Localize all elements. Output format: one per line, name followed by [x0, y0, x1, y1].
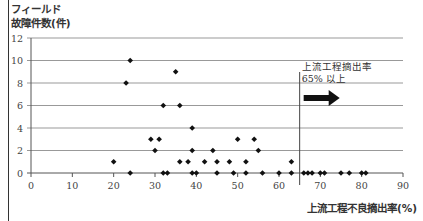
scatter-plot: 0246810120102030405060708090上流工程摘出率65% 以… — [0, 0, 423, 221]
y-tick-label: 10 — [11, 55, 23, 66]
data-point — [152, 148, 158, 154]
annotation-line2: 65% 以上 — [302, 73, 346, 84]
data-point — [243, 159, 249, 165]
data-point — [177, 103, 183, 109]
data-point — [160, 103, 166, 109]
x-tick-label: 20 — [108, 180, 120, 191]
data-point — [214, 170, 220, 176]
data-point — [123, 80, 129, 86]
data-point — [189, 125, 195, 131]
y-tick-label: 2 — [17, 145, 23, 156]
data-point — [346, 170, 352, 176]
y-tick-label: 12 — [11, 33, 23, 44]
arrow-right-icon — [329, 90, 340, 106]
data-point — [363, 170, 369, 176]
data-point — [338, 170, 344, 176]
data-point — [189, 148, 195, 154]
data-point — [210, 148, 216, 154]
data-point — [227, 159, 233, 165]
annotation-line1: 上流工程摘出率 — [302, 61, 372, 72]
arrow-shaft — [304, 95, 330, 101]
data-point — [194, 170, 200, 176]
x-tick-label: 40 — [190, 180, 202, 191]
data-point — [127, 170, 133, 176]
data-point — [148, 136, 154, 142]
data-point — [127, 58, 133, 64]
data-point — [231, 170, 237, 176]
data-point — [243, 170, 249, 176]
x-tick-label: 30 — [149, 180, 161, 191]
x-tick-label: 90 — [397, 180, 409, 191]
data-point — [111, 159, 117, 165]
data-point — [322, 170, 328, 176]
y-tick-label: 4 — [17, 123, 23, 134]
y-tick-label: 8 — [17, 78, 23, 89]
data-point — [251, 136, 257, 142]
x-tick-label: 80 — [356, 180, 368, 191]
data-point — [214, 159, 220, 165]
x-tick-label: 10 — [66, 180, 78, 191]
data-point — [309, 170, 315, 176]
x-tick-label: 50 — [232, 180, 244, 191]
data-point — [289, 159, 295, 165]
data-point — [235, 136, 241, 142]
data-point — [185, 159, 191, 165]
x-tick-label: 60 — [273, 180, 285, 191]
data-point — [289, 170, 295, 176]
data-point — [256, 148, 262, 154]
y-tick-label: 6 — [17, 100, 23, 111]
x-tick-label: 0 — [28, 180, 34, 191]
data-point — [156, 136, 162, 142]
data-point — [177, 159, 183, 165]
data-point — [173, 69, 179, 75]
data-point — [165, 170, 171, 176]
y-tick-label: 0 — [17, 168, 23, 179]
data-point — [276, 170, 282, 176]
x-tick-label: 70 — [314, 180, 326, 191]
data-point — [202, 159, 208, 165]
data-point — [260, 170, 266, 176]
